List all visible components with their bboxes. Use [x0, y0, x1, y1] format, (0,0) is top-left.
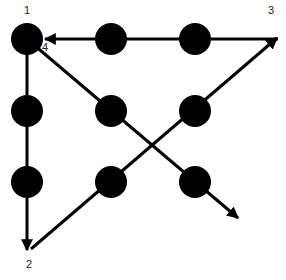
nine-dots-diagram: 1234	[0, 0, 286, 280]
stroke-2-to-3-arrow	[31, 38, 277, 249]
dot-r2c1	[11, 95, 43, 127]
dot-r1c1	[11, 23, 43, 55]
dot-r3c3	[179, 166, 211, 198]
dot-r1c3	[179, 23, 211, 55]
dot-r1c2	[95, 23, 127, 55]
label-2: 2	[26, 258, 32, 270]
dot-r2c2	[95, 95, 127, 127]
path-strokes	[27, 38, 278, 250]
label-4: 4	[42, 41, 48, 53]
dot-r3c1	[11, 166, 43, 198]
label-1: 1	[24, 4, 30, 16]
label-3: 3	[268, 4, 274, 16]
dot-r3c2	[95, 166, 127, 198]
step-labels: 1234	[24, 4, 274, 270]
dot-r2c3	[179, 95, 211, 127]
